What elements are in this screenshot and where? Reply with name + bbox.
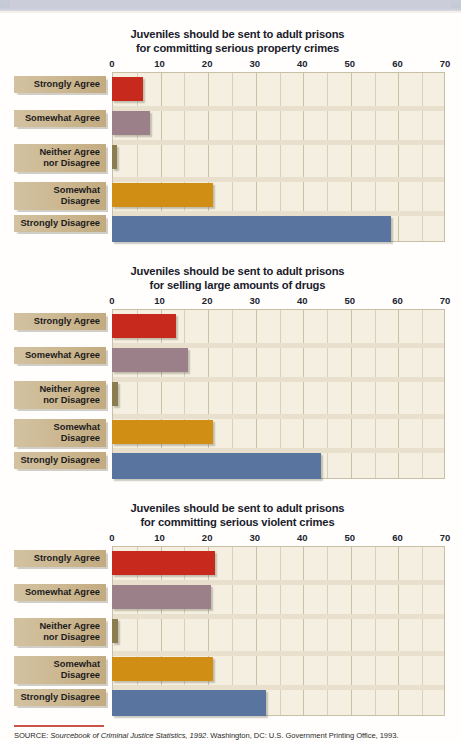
- bar-rows: Strongly AgreeSomewhat AgreeNeither Agre…: [0, 72, 461, 242]
- page-top-band-inner: [10, 0, 451, 9]
- category-label-5: Strongly Disagree: [14, 215, 106, 232]
- x-tick-label: 70: [440, 58, 451, 69]
- bar-3: [112, 145, 117, 169]
- bar-5: [112, 690, 266, 716]
- category-label-4: Somewhat Disagree: [14, 656, 106, 684]
- category-label-2: Somewhat Agree: [14, 347, 106, 364]
- bar-4: [112, 183, 213, 207]
- category-label-3: Neither Agreenor Disagree: [14, 381, 106, 409]
- category-label-4: Somewhat Disagree: [14, 419, 106, 447]
- category-label-1: Strongly Agree: [14, 313, 106, 330]
- x-tick-label: 60: [392, 532, 403, 543]
- bar-5: [112, 216, 391, 242]
- x-tick-label: 0: [109, 295, 114, 306]
- x-tick-label: 40: [297, 295, 308, 306]
- chart-selling-drugs: Juveniles should be sent to adult prison…: [0, 263, 461, 498]
- x-axis: 010203040506070: [0, 58, 461, 71]
- category-label-1: Strongly Agree: [14, 550, 106, 567]
- bar-1: [112, 314, 176, 338]
- chart-violent-crimes: Juveniles should be sent to adult prison…: [0, 500, 461, 722]
- x-tick-label: 60: [392, 295, 403, 306]
- chart-title: Juveniles should be sent to adult prison…: [0, 500, 461, 529]
- bar-3: [112, 382, 118, 406]
- bar-2: [112, 348, 188, 372]
- x-tick-label: 50: [345, 295, 356, 306]
- x-axis: 010203040506070: [0, 295, 461, 308]
- chart-title-line1: Juveniles should be sent to adult prison…: [131, 265, 345, 277]
- x-tick-label: 30: [249, 532, 260, 543]
- bar-2: [112, 585, 211, 609]
- x-axis: 010203040506070: [0, 532, 461, 545]
- bar-rows: Strongly AgreeSomewhat AgreeNeither Agre…: [0, 309, 461, 479]
- chart-title-line2: for selling large amounts of drugs: [14, 279, 461, 293]
- x-tick-label: 20: [202, 295, 213, 306]
- bar-1: [112, 551, 215, 575]
- source-citation: SOURCE: Sourcebook of Criminal Justice S…: [14, 731, 454, 740]
- x-tick-label: 10: [154, 295, 165, 306]
- source-title: Sourcebook of Criminal Justice Statistic…: [50, 731, 206, 740]
- bar-4: [112, 657, 213, 681]
- x-tick-label: 60: [392, 58, 403, 69]
- category-label-3: Neither Agreenor Disagree: [14, 618, 106, 646]
- x-tick-label: 30: [249, 295, 260, 306]
- x-tick-label: 50: [345, 58, 356, 69]
- category-label-1: Strongly Agree: [14, 76, 106, 93]
- plot-wrapper: 010203040506070 Strongly AgreeSomewhat A…: [0, 58, 461, 250]
- bar-1: [112, 77, 143, 101]
- chart-title-line2: for committing serious violent crimes: [14, 516, 461, 530]
- x-tick-label: 50: [345, 532, 356, 543]
- category-label-2: Somewhat Agree: [14, 584, 106, 601]
- chart-property-crimes: Juveniles should be sent to adult prison…: [0, 26, 461, 261]
- plot-wrapper: 010203040506070 Strongly AgreeSomewhat A…: [0, 532, 461, 724]
- chart-title: Juveniles should be sent to adult prison…: [0, 263, 461, 292]
- source-rest: . Washington, DC: U.S. Government Printi…: [206, 731, 398, 740]
- source-rule: [14, 725, 104, 727]
- plot-wrapper: 010203040506070 Strongly AgreeSomewhat A…: [0, 295, 461, 487]
- x-tick-label: 40: [297, 532, 308, 543]
- x-tick-label: 70: [440, 532, 451, 543]
- x-tick-label: 10: [154, 532, 165, 543]
- x-tick-label: 40: [297, 58, 308, 69]
- bar-2: [112, 111, 150, 135]
- chart-title-line1: Juveniles should be sent to adult prison…: [131, 28, 345, 40]
- x-tick-label: 30: [249, 58, 260, 69]
- chart-title-line1: Juveniles should be sent to adult prison…: [131, 502, 345, 514]
- source-prefix: SOURCE:: [14, 731, 50, 740]
- bar-3: [112, 619, 118, 643]
- article-sheet: Juveniles should be sent to adult prison…: [0, 13, 461, 742]
- category-label-4: Somewhat Disagree: [14, 182, 106, 210]
- category-label-5: Strongly Disagree: [14, 452, 106, 469]
- page-top-band: [0, 0, 461, 11]
- x-tick-label: 20: [202, 532, 213, 543]
- x-tick-label: 20: [202, 58, 213, 69]
- bar-5: [112, 453, 321, 479]
- category-label-2: Somewhat Agree: [14, 110, 106, 127]
- x-tick-label: 0: [109, 532, 114, 543]
- x-tick-label: 10: [154, 58, 165, 69]
- chart-title-line2: for committing serious property crimes: [14, 42, 461, 56]
- category-label-3: Neither Agreenor Disagree: [14, 144, 106, 172]
- category-label-5: Strongly Disagree: [14, 689, 106, 706]
- chart-title: Juveniles should be sent to adult prison…: [0, 26, 461, 55]
- bar-4: [112, 420, 213, 444]
- bar-rows: Strongly AgreeSomewhat AgreeNeither Agre…: [0, 546, 461, 716]
- x-tick-label: 0: [109, 58, 114, 69]
- x-tick-label: 70: [440, 295, 451, 306]
